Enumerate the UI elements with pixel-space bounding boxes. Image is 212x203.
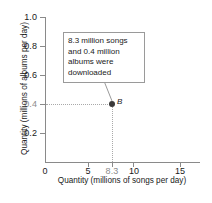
- data-point-b-label: B: [117, 97, 122, 106]
- x-axis-label: Quantity (millions of songs per day): [38, 176, 206, 185]
- x-ticklabel-8-3: 8.3: [100, 166, 124, 176]
- x-ticklabel-15: 15: [168, 166, 192, 176]
- x-ticklabel-10: 10: [122, 166, 146, 176]
- annotation-textbox: 8.3 million songs and 0.4 million albums…: [63, 32, 145, 83]
- figure-caption: [6, 194, 212, 203]
- y-tick-0-6: [40, 75, 45, 76]
- y-tick-0-4: [40, 104, 45, 105]
- x-ticklabel-5: 5: [76, 166, 100, 176]
- annotation-line-4: downloaded: [68, 68, 140, 79]
- x-ticklabel-0: 0: [33, 166, 57, 176]
- annotation-line-1: 8.3 million songs: [68, 36, 140, 47]
- y-tick-0-2: [40, 133, 45, 134]
- y-axis-line: [45, 17, 46, 163]
- chart-figure: 1.0 0.8 0.6 0.4 0.2 0 5 8.3 10 15 Quanti…: [0, 0, 212, 203]
- guide-line-vertical: [112, 104, 113, 162]
- y-tick-1-0: [40, 17, 45, 18]
- data-point-b: [109, 101, 115, 107]
- y-axis-label: Quantity (millions of albums per day): [20, 14, 29, 164]
- annotation-line-2: and 0.4 million: [68, 47, 140, 58]
- x-axis-line: [45, 162, 200, 163]
- y-tick-0-8: [40, 46, 45, 47]
- annotation-line-3: albums were: [68, 57, 140, 68]
- guide-line-horizontal: [46, 104, 112, 105]
